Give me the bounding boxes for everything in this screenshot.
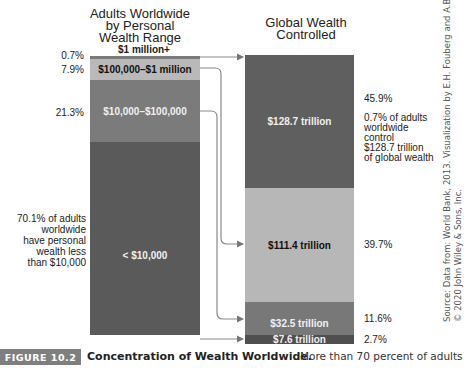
right-pct-32: 11.6%	[364, 314, 392, 324]
right-seg-7: $7.6 trillion	[245, 335, 354, 344]
figure-badge: FIGURE 10.2	[0, 349, 81, 365]
connector-arrows	[0, 0, 476, 371]
right-pct-111: 39.7%	[364, 240, 392, 250]
arrow-100k	[200, 68, 243, 244]
right-annotation: 0.7% of adults worldwide control $128.7 …	[364, 113, 434, 163]
caption-title: Concentration of Wealth Worldwide.	[87, 350, 312, 363]
right-pct-128: 45.9%	[364, 94, 392, 104]
right-pct-7: 2.7%	[364, 335, 387, 345]
right-seg-128: $128.7 trillion	[245, 55, 354, 188]
source-line: © 2020 John Wiley & Sons, Inc.	[453, 0, 464, 322]
source-credit: Source: Data from: World Bank, 2013. Vis…	[442, 0, 464, 322]
segment-label: $128.7 trillion	[268, 116, 332, 127]
right-seg-32: $32.5 trillion	[245, 302, 354, 335]
segment-label: $7.6 trillion	[273, 334, 326, 345]
source-line: Source: Data from: World Bank, 2013. Vis…	[442, 0, 453, 322]
segment-label: $111.4 trillion	[268, 240, 331, 251]
segment-label: $32.5 trillion	[270, 318, 328, 329]
annotation-line: of global wealth	[364, 153, 434, 163]
caption-text: More than 70 percent of adults	[300, 350, 463, 362]
right-seg-111: $111.4 trillion	[245, 188, 354, 302]
